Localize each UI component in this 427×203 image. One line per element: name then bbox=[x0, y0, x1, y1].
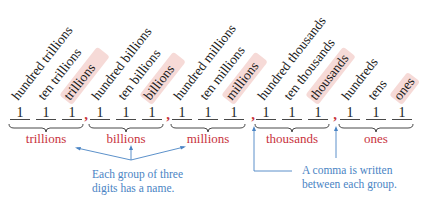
digit: 1 bbox=[205, 105, 212, 120]
digit: 1 bbox=[17, 105, 24, 120]
comma: , bbox=[166, 106, 170, 122]
place-value-labels: hundred trillionsten trillionstrillionsh… bbox=[9, 14, 421, 106]
group-name-note-line2: digits has a name. bbox=[92, 182, 175, 195]
comma: , bbox=[251, 106, 255, 122]
comma-note-line2: between each group. bbox=[302, 178, 397, 191]
digit: 1 bbox=[97, 105, 104, 120]
digit: 1 bbox=[347, 105, 354, 120]
digit-row: 111111111111111 bbox=[10, 105, 412, 120]
place-value-diagram: hundred trillionsten trillionstrillionsh… bbox=[0, 0, 427, 203]
comma: , bbox=[84, 106, 88, 122]
group-label: thousands bbox=[266, 131, 318, 146]
group-labels: trillionsbillionsmillionsthousandsones bbox=[26, 131, 388, 146]
digit: 1 bbox=[263, 105, 270, 120]
place-value-label: tens bbox=[365, 76, 390, 102]
place-value-text: tens bbox=[365, 76, 390, 102]
group-label: ones bbox=[364, 131, 388, 146]
digit: 1 bbox=[373, 105, 380, 120]
digit: 1 bbox=[43, 105, 50, 120]
group-name-note-line1: Each group of three bbox=[92, 168, 183, 181]
place-value-label: ones bbox=[389, 72, 420, 105]
digit: 1 bbox=[289, 105, 296, 120]
group-label: billions bbox=[106, 131, 145, 146]
digit: 1 bbox=[69, 105, 76, 120]
digit: 1 bbox=[123, 105, 130, 120]
digit: 1 bbox=[179, 105, 186, 120]
comma: , bbox=[333, 106, 337, 122]
group-label: trillions bbox=[26, 131, 66, 146]
digit: 1 bbox=[315, 105, 322, 120]
group-label: millions bbox=[187, 131, 230, 146]
digit: 1 bbox=[399, 105, 406, 120]
digit: 1 bbox=[149, 105, 156, 120]
comma-note-line1: A comma is written bbox=[302, 164, 393, 176]
digit: 1 bbox=[231, 105, 238, 120]
